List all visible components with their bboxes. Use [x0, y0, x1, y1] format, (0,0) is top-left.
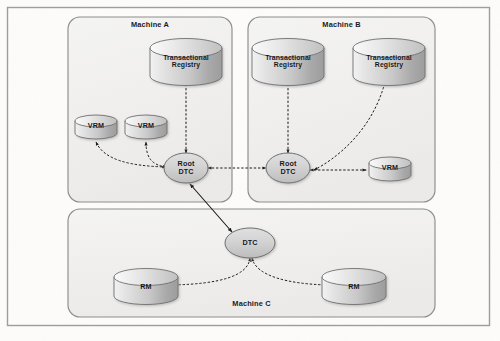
machine-c-label: Machine C — [68, 299, 435, 308]
diagram-canvas: Machine A Machine B Machine C Transactio… — [0, 0, 500, 341]
node-vrm-a1 — [75, 115, 117, 139]
node-vrm-a2 — [125, 115, 167, 139]
node-dtc-c — [225, 228, 275, 258]
machine-b-label: Machine B — [248, 20, 435, 29]
node-root-dtc-a — [164, 153, 208, 183]
node-transactional-registry-b2 — [353, 39, 425, 86]
diagram-svg — [0, 0, 500, 341]
node-vrm-b — [369, 157, 411, 181]
machine-a-label: Machine A — [68, 20, 232, 29]
node-transactional-registry-b1 — [252, 39, 324, 86]
node-root-dtc-b — [266, 153, 310, 183]
node-transactional-registry-a — [150, 39, 222, 86]
